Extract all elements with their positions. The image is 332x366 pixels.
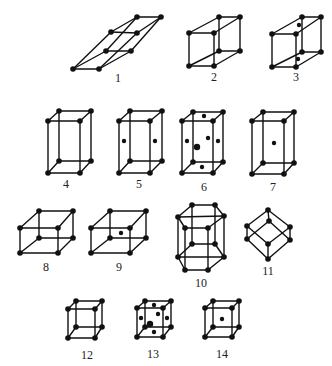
lattice-cell-8: 8 [17,208,76,274]
cell-edge [91,211,110,228]
lattice-point [236,324,242,330]
cell-edge [20,211,39,228]
centered-lattice-point [202,114,206,118]
cell-label: 5 [136,177,142,191]
cell-edge [20,238,39,253]
lattice-point [160,334,166,340]
lattice-point [116,170,122,176]
cell-edge [208,257,224,270]
cell-label: 6 [201,180,207,194]
cell-edge [91,238,110,253]
lattice-point [299,49,305,55]
cell-label: 7 [270,180,276,194]
centered-lattice-point [122,139,126,143]
lattice-point [293,31,299,37]
lattice-point [186,30,192,36]
lattice-point [168,298,174,304]
lattice-point [179,118,185,124]
centered-lattice-point [297,23,301,27]
lattice-point [17,225,23,231]
lattice-point [45,170,51,176]
lattice-point [260,160,266,166]
lattice-point [175,254,181,260]
lattice-point [211,63,217,69]
lattice-point [127,225,133,231]
lattice-point [142,298,148,304]
lattice-point [212,202,218,208]
lattice-point [99,324,105,330]
lattice-point [96,66,102,72]
lattice-point [168,324,174,330]
lattice-point [287,224,293,230]
lattice-point [190,109,196,115]
lattice-cell-2: 2 [186,14,243,84]
lattice-point [159,108,165,114]
centered-lattice-point [156,312,160,316]
diagram-canvas: 1234567891011121314 [0,0,332,366]
lattice-point [134,14,140,20]
lattice-cell-1: 1 [70,14,164,85]
lattice-point [77,118,83,124]
lattice-point [55,225,61,231]
lattice-cell-13: 13 [134,298,174,361]
centered-lattice-point [272,141,276,145]
lattice-point [147,170,153,176]
lattice-point [55,250,61,256]
lattice-point [229,305,235,311]
lattice-point [92,335,98,341]
lattice-point [142,324,148,330]
lattice-point [134,305,140,311]
lattice-point [73,298,79,304]
lattice-point [70,66,76,72]
lattice-point [202,305,208,311]
lattice-cell-4: 4 [45,108,94,191]
lattice-point [56,108,62,114]
lattice-point [265,256,271,262]
lattice-point [88,108,94,114]
lattice-point [103,48,109,54]
centered-lattice-point [220,317,224,321]
lattice-point [281,118,287,124]
lattice-point [269,31,275,37]
lattice-point [127,250,133,256]
lattice-point [211,30,217,36]
lattice-point [265,207,271,213]
lattice-point [175,214,181,220]
lattice-cell-14: 14 [202,298,242,361]
lattice-point [92,306,98,312]
lattice-cell-9: 9 [88,208,149,274]
lattice-point [221,213,227,219]
lattice-point [158,14,164,20]
lattice-point [116,118,122,124]
lattice-point [202,334,208,340]
lattice-point [210,324,216,330]
lattice-cell-3: 3 [269,14,324,84]
centered-lattice-point [139,316,143,320]
cell-edge [111,17,137,32]
centered-lattice-point [216,139,220,143]
lattice-point [249,118,255,124]
centered-lattice-point [152,303,156,307]
lattice-point [182,225,188,231]
cell-label: 9 [116,260,122,274]
cell-edge [268,210,290,227]
lattice-point [147,118,153,124]
centered-lattice-point [206,136,210,140]
centered-lattice-point [152,330,156,334]
lattice-point [210,118,216,124]
lattice-point [45,118,51,124]
lattice-point [134,334,140,340]
lattice-point [205,225,211,231]
lattice-point [244,236,250,242]
lattice-point [293,64,299,70]
lattice-point [70,235,76,241]
centered-lattice-point [153,139,157,143]
lattice-point [210,298,216,304]
lattice-point [236,298,242,304]
lattice-point [182,267,188,273]
cell-label: 14 [216,347,228,361]
lattice-point [107,235,113,241]
lattice-point [160,305,166,311]
lattice-point [65,335,71,341]
lattice-cell-6: 6 [179,109,226,194]
